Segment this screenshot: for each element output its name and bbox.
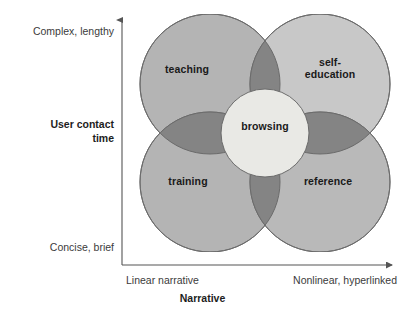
y-axis-title: User contact time: [6, 118, 114, 145]
label-browsing: browsing: [222, 121, 308, 133]
x-axis-left-label: Linear narrative: [126, 274, 199, 286]
x-axis-title: Narrative: [0, 292, 405, 304]
diagram-canvas: Complex, lengthy User contact time Conci…: [0, 0, 405, 312]
venn-diagram: [134, 14, 396, 252]
label-teaching: teaching: [144, 64, 230, 76]
label-training: training: [145, 176, 231, 188]
x-axis-right-label: Nonlinear, hyperlinked: [293, 274, 397, 286]
label-self-education: self- education: [287, 57, 373, 81]
y-axis-top-label: Complex, lengthy: [14, 25, 114, 37]
label-reference: reference: [285, 176, 371, 188]
circle-browsing[interactable]: [221, 89, 309, 177]
y-axis-bottom-label: Concise, brief: [14, 241, 114, 253]
